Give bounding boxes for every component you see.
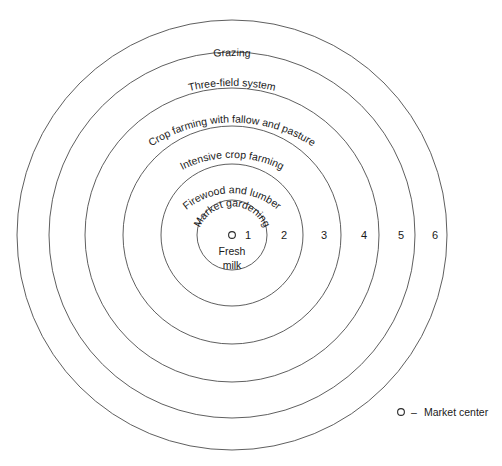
von-thunen-diagram: Grazing Three-field system Crop farming … — [0, 0, 502, 466]
concentric-rings-svg: Grazing Three-field system Crop farming … — [0, 0, 502, 466]
zone-number-4: 4 — [361, 229, 367, 241]
core-text-line1: Fresh — [219, 245, 246, 257]
legend-label: Market center — [424, 406, 489, 418]
legend-market-center-icon — [398, 409, 405, 416]
zone-number-5: 5 — [398, 229, 404, 241]
zone-number-1: 1 — [245, 229, 251, 241]
legend-dash: – — [411, 406, 417, 418]
zone-label-3: Intensive crop farming — [178, 148, 287, 172]
market-center-icon — [229, 232, 236, 239]
zone-number-3: 3 — [321, 229, 327, 241]
zone-label-5: Three-field system — [187, 76, 277, 93]
ring-circle-4 — [85, 88, 379, 382]
core-text-line2: milk — [223, 259, 242, 271]
zone-label-4: Crop farming with fallow and pasture — [146, 113, 318, 149]
zone-number-2: 2 — [281, 229, 287, 241]
zone-number-6: 6 — [432, 229, 438, 241]
zone-label-6: Grazing — [213, 46, 251, 59]
